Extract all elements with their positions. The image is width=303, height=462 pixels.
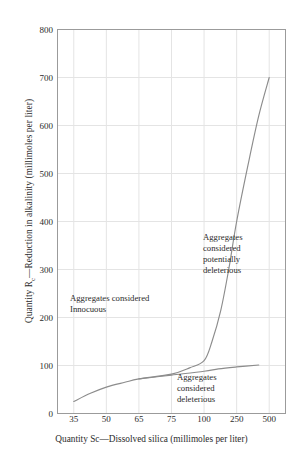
annotation-line: considered: [203, 243, 279, 254]
annotation-potentially-deleterious: Aggregatesconsideredpotentiallydeleterio…: [203, 232, 279, 277]
x-axis-tick-labels: 35506575100250500: [0, 414, 303, 430]
annotation-innocuous: Aggregates consideredInnocuous: [70, 293, 190, 315]
annotation-line: deleterious: [203, 265, 279, 276]
plot-area: [0, 0, 303, 462]
annotation-deleterious: Aggregatesconsidereddeleterious: [177, 372, 249, 405]
annotation-line: considered: [177, 383, 249, 394]
x-axis-title: Quantity Sc—Dissolved silica (millimoles…: [0, 434, 303, 444]
annotation-line: deleterious: [177, 394, 249, 405]
annotation-line: Innocuous: [70, 304, 190, 315]
chart-figure: Quantity Rc—Reduction in alkalinity (mil…: [0, 0, 303, 462]
x-axis-tick-500: 500: [249, 414, 289, 424]
gridlines: [58, 30, 286, 414]
annotation-line: Aggregates considered: [70, 293, 190, 304]
annotation-line: Aggregates: [177, 372, 249, 383]
annotation-line: Aggregates: [203, 232, 279, 243]
annotation-line: potentially: [203, 254, 279, 265]
